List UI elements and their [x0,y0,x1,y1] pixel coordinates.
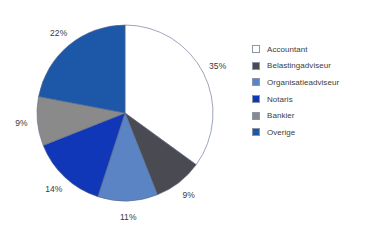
legend-item[interactable]: Bankier [252,107,372,124]
pie-slice-label: 9% [15,118,28,128]
chart-legend: AccountantBelastingadviseurOrganisatiead… [252,41,372,141]
legend-swatch-icon [252,112,260,120]
legend-item[interactable]: Organisatieadviseur [252,74,372,91]
legend-item[interactable]: Overige [252,124,372,141]
legend-swatch-icon [252,45,260,53]
pie-slice-label: 14% [45,184,62,194]
legend-swatch-icon [252,128,260,136]
legend-item-label: Overige [267,128,295,137]
legend-swatch-icon [252,62,260,70]
legend-item-label: Organisatieadviseur [267,78,339,87]
pie-slice-label: 35% [209,61,226,71]
legend-item[interactable]: Belastingadviseur [252,58,372,75]
legend-item-label: Bankier [267,111,294,120]
pie-slice-label: 11% [120,212,137,222]
legend-item[interactable]: Notaris [252,91,372,108]
pie-slice-label: 9% [182,190,195,200]
legend-item-label: Notaris [267,95,293,104]
legend-item-label: Accountant [267,45,308,54]
legend-item-label: Belastingadviseur [267,61,331,70]
legend-item[interactable]: Accountant [252,41,372,58]
pie-slices-group [37,25,213,201]
pie-chart-figure: 35%9%11%14%9%22% AccountantBelastingadvi… [0,0,374,233]
pie-slice-label: 22% [50,28,67,38]
legend-swatch-icon [252,95,260,103]
legend-swatch-icon [252,78,260,86]
